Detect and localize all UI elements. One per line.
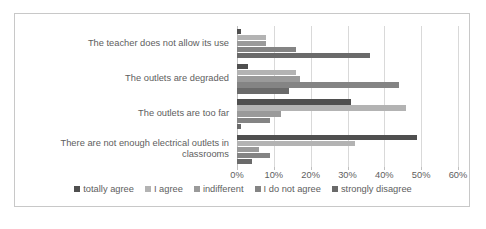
bar[interactable] (237, 29, 241, 34)
category-label: The teacher does not allow its use (19, 26, 229, 61)
chart-legend: totally agreeI agreeindifferentI do not … (15, 184, 471, 194)
bar-row (237, 41, 458, 46)
bar-row (237, 53, 458, 58)
bar[interactable] (237, 135, 417, 140)
bar[interactable] (237, 105, 406, 110)
bar-row (237, 29, 458, 34)
bar[interactable] (237, 82, 399, 87)
bar-row (237, 47, 458, 52)
x-tick-label: 0% (230, 170, 243, 180)
bar-row (237, 111, 458, 116)
x-tick-label: 30% (338, 170, 357, 180)
legend-label: indifferent (203, 184, 244, 194)
bar-group (237, 26, 458, 61)
legend-item[interactable]: I agree (145, 184, 183, 194)
gridline-60 (458, 26, 459, 167)
plot-area: The teacher does not allow its useThe ou… (15, 14, 471, 208)
category-label: The outlets are too far (19, 97, 229, 132)
x-tick-label: 20% (301, 170, 320, 180)
legend-item[interactable]: strongly disagree (332, 184, 412, 194)
bar-group (237, 132, 458, 167)
legend-swatch-icon (332, 186, 338, 192)
category-label: The outlets are degraded (19, 61, 229, 96)
bar-row (237, 105, 458, 110)
legend-swatch-icon (74, 186, 80, 192)
bar-row (237, 70, 458, 75)
bar[interactable] (237, 70, 296, 75)
legend-swatch-icon (145, 186, 151, 192)
bar[interactable] (237, 47, 296, 52)
bar-row (237, 82, 458, 87)
bar[interactable] (237, 99, 351, 104)
legend-item[interactable]: totally agree (74, 184, 134, 194)
bar[interactable] (237, 64, 248, 69)
legend-label: I do not agree (264, 184, 321, 194)
bar[interactable] (237, 53, 370, 58)
bar-row (237, 35, 458, 40)
bar-row (237, 147, 458, 152)
chart-frame: The teacher does not allow its useThe ou… (14, 13, 470, 207)
bar[interactable] (237, 88, 289, 93)
bar-row (237, 64, 458, 69)
x-tick-label: 60% (449, 170, 468, 180)
bar-row (237, 76, 458, 81)
bar[interactable] (237, 76, 300, 81)
bar-row (237, 99, 458, 104)
bar-groups (237, 26, 458, 167)
legend-item[interactable]: indifferent (194, 184, 244, 194)
category-label-text: The outlets are too far (138, 108, 229, 120)
bar[interactable] (237, 111, 281, 116)
bar[interactable] (237, 35, 266, 40)
bar-group (237, 97, 458, 132)
legend-label: strongly disagree (341, 184, 412, 194)
bar-group (237, 61, 458, 96)
bar[interactable] (237, 41, 266, 46)
bar[interactable] (237, 153, 270, 158)
bar-row (237, 118, 458, 123)
category-label: There are not enough electrical outlets … (19, 132, 229, 167)
bar-row (237, 135, 458, 140)
bar-row (237, 124, 458, 129)
bar[interactable] (237, 147, 259, 152)
bar[interactable] (237, 118, 270, 123)
x-tick-label: 40% (375, 170, 394, 180)
legend-label: I agree (154, 184, 183, 194)
legend-label: totally agree (83, 184, 134, 194)
bar[interactable] (237, 124, 241, 129)
legend-swatch-icon (255, 186, 261, 192)
x-tick-label: 10% (265, 170, 284, 180)
bar-row (237, 153, 458, 158)
bar-row (237, 141, 458, 146)
x-axis: 0%10%20%30%40%50%60% (237, 167, 458, 183)
legend-swatch-icon (194, 186, 200, 192)
bar[interactable] (237, 141, 355, 146)
bar-row (237, 88, 458, 93)
bar-row (237, 159, 458, 164)
category-label-text: There are not enough electrical outlets … (19, 138, 229, 161)
x-tick-label: 50% (412, 170, 431, 180)
bar[interactable] (237, 159, 252, 164)
category-label-text: The outlets are degraded (125, 73, 229, 85)
category-label-text: The teacher does not allow its use (88, 38, 229, 50)
legend-item[interactable]: I do not agree (255, 184, 321, 194)
category-axis-labels: The teacher does not allow its useThe ou… (19, 26, 233, 167)
